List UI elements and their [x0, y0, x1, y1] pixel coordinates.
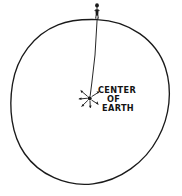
observer-body [95, 9, 98, 15]
center-dot [88, 96, 92, 100]
center-of-earth-diagram [0, 0, 182, 196]
diagram-canvas: CENTER OF EARTH [0, 0, 182, 196]
observer-leg-left [96, 15, 97, 18]
observer-leg-right [98, 15, 99, 18]
observer-head [95, 3, 99, 7]
